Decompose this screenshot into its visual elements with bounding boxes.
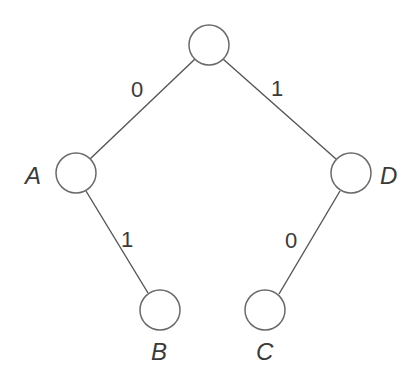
binary-tree-diagram: 0 1 1 0 A D B C xyxy=(0,0,420,385)
root-node xyxy=(189,25,229,65)
edge-label-a-b: 1 xyxy=(121,227,133,252)
edge-root-to-a xyxy=(90,59,195,159)
edge-label-root-a: 0 xyxy=(131,77,143,102)
edge-a-to-b xyxy=(86,191,148,293)
node-c xyxy=(245,290,285,330)
node-b xyxy=(140,290,180,330)
node-a xyxy=(56,153,96,193)
node-d xyxy=(331,153,371,193)
edge-root-to-d xyxy=(223,59,336,159)
node-label-a: A xyxy=(23,162,41,189)
edge-label-root-d: 1 xyxy=(271,76,283,101)
node-label-b: B xyxy=(151,338,167,365)
node-label-d: D xyxy=(380,162,397,189)
edge-label-d-c: 0 xyxy=(285,228,297,253)
node-label-c: C xyxy=(256,338,274,365)
